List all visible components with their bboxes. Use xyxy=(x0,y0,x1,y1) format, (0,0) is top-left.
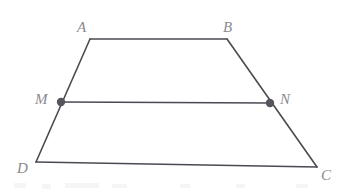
geometry-figure: A B C D M N xyxy=(0,0,350,194)
point-m-dot xyxy=(57,98,65,106)
vertex-label-c: C xyxy=(321,168,331,183)
point-label-n: N xyxy=(280,92,290,107)
segment-cd xyxy=(36,162,317,167)
geometry-canvas xyxy=(0,0,350,194)
vertex-label-a: A xyxy=(77,20,86,35)
point-n-dot xyxy=(266,99,274,107)
midsegment-group xyxy=(61,102,270,103)
vertex-label-d: D xyxy=(17,161,28,176)
segment-mn xyxy=(61,102,270,103)
vertex-label-b: B xyxy=(223,20,232,35)
point-label-m: M xyxy=(35,92,48,107)
